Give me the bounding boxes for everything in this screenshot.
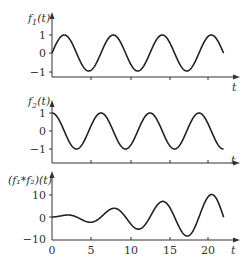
ytick-label: 0 bbox=[39, 47, 46, 60]
panel-f1: 1 0 −1 f1(t) t bbox=[27, 12, 240, 94]
xtick-label: 20 bbox=[201, 244, 215, 257]
x-axis-label: t bbox=[232, 81, 237, 94]
x-axis-arrow-icon bbox=[233, 238, 240, 243]
ytick-label: 1 bbox=[39, 107, 46, 120]
y-axis-label-convolution: (f₁*f₂)(t) bbox=[8, 174, 52, 187]
x-axis-arrow-icon bbox=[233, 75, 240, 80]
x-axis-label: t bbox=[231, 154, 236, 167]
y-axis-arrow-icon bbox=[50, 12, 55, 19]
x-axis-label: t bbox=[231, 244, 236, 257]
ytick-label: 10 bbox=[32, 189, 46, 202]
xtick-label: 10 bbox=[124, 244, 138, 257]
convolution-figure: 1 0 −1 f1(t) t 1 0 −1 f2(t) t bbox=[0, 0, 250, 270]
xtick-label: 15 bbox=[163, 244, 177, 257]
ytick-label: −10 bbox=[23, 233, 46, 246]
xtick-label: 0 bbox=[49, 244, 56, 257]
ytick-label: 0 bbox=[39, 125, 46, 138]
ytick-label: 0 bbox=[39, 212, 46, 225]
ytick-label: −1 bbox=[30, 143, 46, 156]
panel-f2: 1 0 −1 f2(t) t bbox=[27, 95, 240, 167]
f2-curve bbox=[52, 113, 224, 149]
convolution-curve bbox=[52, 195, 224, 237]
panel-convolution: 10 0 −10 (f₁*f₂)(t) 0 5 10 15 20 t bbox=[8, 171, 240, 257]
xtick-label: 5 bbox=[88, 244, 95, 257]
y-axis-label-f1: f1(t) bbox=[27, 12, 50, 27]
f1-curve bbox=[52, 35, 224, 71]
y-axis-label-f2: f2(t) bbox=[27, 95, 50, 110]
ytick-label: 1 bbox=[39, 29, 46, 42]
ytick-label: −1 bbox=[30, 66, 46, 79]
y-axis-arrow-icon bbox=[50, 100, 55, 107]
